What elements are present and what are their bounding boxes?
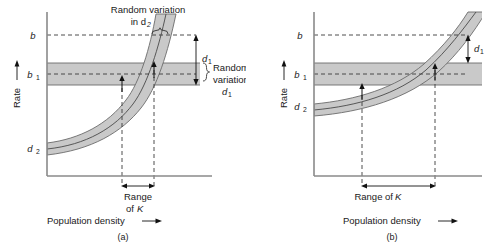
y-tick-label-b1-b: b 1 [294,69,307,81]
y-tick-label-b1-sub: 1 [36,74,40,81]
y-tick-label-b1-sub-b: 1 [303,74,307,81]
annotation-d1-sub3-a: 1 [228,91,232,98]
annotation-random-variation-d1-line1-a: Random [213,62,246,73]
x-axis-title-b: Population density [343,215,421,226]
annotation-random-variation-d2-line1-a: Random variation [111,4,185,15]
x-axis-title-a: Population density [47,215,125,226]
panel-a-chart: Rate b b 1 d 2 Random variation in d 2 [0,0,246,242]
figure-container: Rate b b 1 d 2 Random variation in d 2 [0,0,492,242]
annotation-random-variation-d1-line2-a: variation in [213,74,246,85]
y-axis-title-a: Rate [11,88,22,108]
range-of-k-arrow-a [121,184,155,189]
d1-arrow-label-b: d 1 [474,43,484,55]
annotation-random-variation-d1-line3-a: d 1 [222,86,232,98]
range-of-k-label-line1-a: Range [124,191,152,202]
svg-text:of: of [126,203,134,214]
range-of-k-arrow-b [361,184,436,189]
panel-caption-b: (b) [387,232,398,242]
annotation-random-variation-d2-line2-a: in d 2 [131,16,151,28]
brace-d1-a [203,63,210,81]
y-tick-label-b-b: b [297,30,302,41]
svg-text:d: d [294,101,300,112]
annotation-d2-sub-a: 2 [146,21,151,28]
panel-b: Rate b b 1 d 2 d 1 [246,0,492,242]
range-of-k-label-line2-a: of K [126,203,144,214]
panel-b-chart: Rate b b 1 d 2 d 1 [246,0,492,242]
range-of-k-label-k-b: K [395,191,402,202]
svg-text:Range of: Range of [354,191,393,202]
panel-caption-a: (a) [118,232,129,242]
y-axis-title-b: Rate [278,88,289,108]
y-tick-label-b-a: b [30,30,35,41]
svg-text:b: b [294,69,299,80]
d1-label-sub-b: 1 [480,48,484,55]
svg-text:b: b [27,69,32,80]
y-axis-title-group-b: Rate [278,60,289,108]
y-tick-label-d2-sub: 2 [36,148,40,155]
x-axis-title-group-b: Population density [343,215,458,226]
range-of-k-label-b: Range of K [354,191,402,202]
y-axis-title-group-a: Rate [11,60,22,108]
panel-a: Rate b b 1 d 2 Random variation in d 2 [0,0,246,242]
svg-text:in d: in d [131,16,146,27]
d1-label-sub-a: 1 [208,58,212,65]
y-tick-label-b1-a: b 1 [27,69,40,81]
y-tick-label-d2-a: d 2 [27,143,40,155]
range-of-k-label-k-a: K [137,203,144,214]
svg-text:d: d [27,143,33,154]
x-axis-title-group-a: Population density [47,215,162,226]
y-tick-label-d2-b: d 2 [294,101,307,113]
y-tick-label-d2-sub-b: 2 [303,106,307,113]
